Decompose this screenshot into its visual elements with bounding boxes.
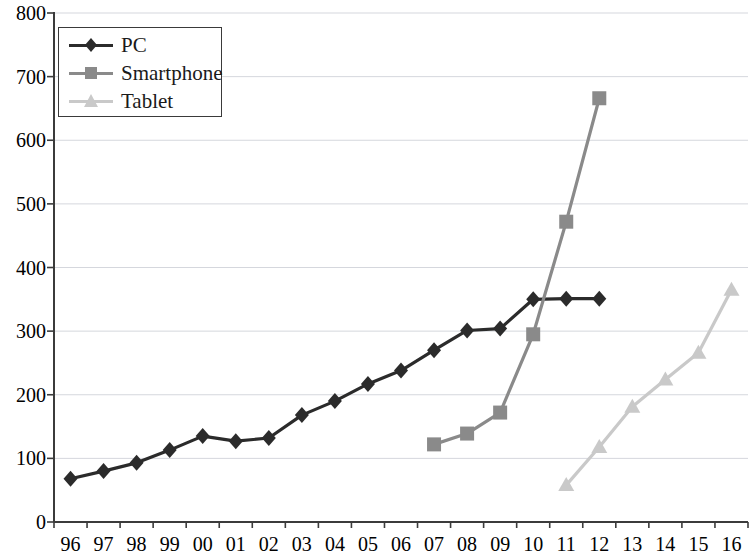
diamond-marker-icon — [295, 407, 309, 423]
triangle-marker-icon — [690, 345, 706, 359]
diamond-marker-icon — [97, 463, 111, 479]
series-pc — [64, 291, 607, 487]
diamond-marker-icon — [427, 342, 441, 358]
diamond-marker-icon — [361, 376, 375, 392]
diamond-marker-icon — [196, 428, 210, 444]
x-axis-tick-label: 16 — [715, 534, 748, 554]
x-axis-tick-label: 03 — [285, 534, 318, 554]
square-marker-icon — [81, 63, 101, 83]
x-axis-tick-label: 05 — [351, 534, 384, 554]
x-axis-tick-label: 97 — [87, 534, 120, 554]
diamond-marker-icon — [64, 471, 78, 487]
diamond-marker-icon — [559, 291, 573, 307]
x-axis-tick-label: 10 — [517, 534, 550, 554]
y-axis-tick-label: 100 — [0, 448, 46, 468]
series-tablet — [558, 282, 739, 491]
series-smartphone — [427, 91, 606, 451]
x-axis-tick-label: 15 — [682, 534, 715, 554]
legend-entry-smartphone: Smartphone — [67, 58, 222, 88]
x-axis-tick-label: 98 — [120, 534, 153, 554]
square-marker-icon — [526, 327, 540, 341]
legend-swatch-smartphone — [67, 62, 115, 84]
series-line — [434, 98, 599, 444]
triangle-marker-icon — [723, 282, 739, 296]
legend-swatch-pc — [67, 34, 115, 56]
y-axis-tick-label: 400 — [0, 258, 46, 278]
x-axis-tick-label: 02 — [252, 534, 285, 554]
line-chart: 0100200300400500600700800 96979899000102… — [0, 0, 750, 559]
y-axis-ticks — [47, 13, 54, 522]
legend-label-pc: PC — [121, 35, 147, 56]
square-marker-icon — [592, 91, 606, 105]
legend-entry-tablet: Tablet — [67, 86, 173, 116]
diamond-marker-icon — [130, 455, 144, 471]
square-marker-icon — [559, 215, 573, 229]
square-marker-icon — [427, 437, 441, 451]
legend-entry-pc: PC — [67, 30, 147, 60]
y-axis-tick-label: 600 — [0, 130, 46, 150]
x-axis-tick-label: 12 — [583, 534, 616, 554]
y-axis-tick-label: 700 — [0, 67, 46, 87]
y-axis-tick-label: 300 — [0, 321, 46, 341]
x-axis-tick-label: 11 — [550, 534, 583, 554]
y-axis-tick-label: 800 — [0, 3, 46, 23]
diamond-marker-icon — [394, 363, 408, 379]
x-axis-tick-label: 07 — [418, 534, 451, 554]
diamond-marker-icon — [328, 393, 342, 409]
x-axis-tick-label: 00 — [186, 534, 219, 554]
chart-legend: PC Smartphone Tablet — [58, 27, 222, 117]
y-axis-tick-label: 500 — [0, 194, 46, 214]
y-axis-tick-label: 0 — [0, 512, 46, 532]
diamond-marker-icon — [460, 322, 474, 338]
x-axis-tick-label: 13 — [616, 534, 649, 554]
x-axis-tick-label: 04 — [318, 534, 351, 554]
legend-label-tablet: Tablet — [121, 91, 173, 112]
diamond-marker-icon — [229, 433, 243, 449]
diamond-marker-icon — [592, 291, 606, 307]
diamond-marker-icon — [163, 442, 177, 458]
x-axis-tick-label: 99 — [153, 534, 186, 554]
square-marker-icon — [460, 427, 474, 441]
x-axis-tick-label: 06 — [384, 534, 417, 554]
triangle-marker-icon — [81, 91, 101, 111]
series-line — [566, 290, 731, 485]
legend-swatch-tablet — [67, 90, 115, 112]
x-axis-tick-label: 08 — [451, 534, 484, 554]
x-axis-tick-label: 14 — [649, 534, 682, 554]
square-marker-icon — [493, 406, 507, 420]
x-axis-tick-label: 09 — [484, 534, 517, 554]
data-series-layer — [64, 91, 740, 491]
diamond-marker-icon — [81, 35, 101, 55]
x-axis-tick-label: 01 — [219, 534, 252, 554]
legend-label-smartphone: Smartphone — [121, 63, 222, 84]
y-axis-tick-label: 200 — [0, 385, 46, 405]
series-line — [71, 299, 600, 479]
x-axis-tick-label: 96 — [54, 534, 87, 554]
diamond-marker-icon — [262, 430, 276, 446]
